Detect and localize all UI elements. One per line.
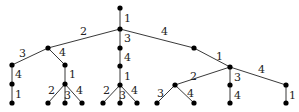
tree-node (227, 100, 232, 105)
edge-label: 4 (258, 63, 265, 76)
tree-node (62, 100, 67, 105)
tree-node (283, 100, 288, 105)
edge-label: 3 (19, 47, 26, 60)
tree-node (172, 82, 177, 87)
tree-node (154, 100, 159, 105)
tree-node (9, 62, 14, 67)
edge-label: 4 (131, 84, 138, 97)
edge-label: 1 (124, 12, 131, 25)
tree-edge (175, 67, 230, 85)
edge-label: 3 (234, 71, 241, 84)
edge-label: 4 (234, 89, 241, 102)
tree-node (45, 45, 50, 50)
tree-node (117, 100, 122, 105)
edge-label: 4 (187, 87, 194, 100)
tree-node (117, 26, 122, 31)
tree-node (62, 62, 67, 67)
tree-node (117, 5, 122, 10)
edge-label: 1 (216, 50, 223, 63)
tree-node (134, 100, 139, 105)
edge-label: 3 (157, 87, 164, 100)
edge-label: 4 (124, 51, 131, 64)
edge-label: 3 (64, 89, 71, 102)
tree-node (191, 100, 196, 105)
tree-node (191, 45, 196, 50)
tree-node (45, 100, 50, 105)
tree-node (9, 81, 14, 86)
tree-diagram: 1234344112344123412343441 (0, 0, 299, 112)
edge-label: 3 (119, 89, 126, 102)
edge-label: 1 (289, 89, 296, 102)
tree-node (62, 81, 67, 86)
tree-node (283, 82, 288, 87)
tree-node (9, 100, 14, 105)
tree-node (117, 45, 122, 50)
tree-node (227, 64, 232, 69)
tree-node (117, 82, 122, 87)
tree-node (79, 100, 84, 105)
tree-edge (120, 29, 194, 48)
tree-node (227, 82, 232, 87)
tree-edge (12, 48, 48, 65)
edge-label: 2 (190, 70, 197, 83)
edge-label: 2 (103, 84, 110, 97)
edge-label: 1 (15, 88, 22, 101)
edge-label: 3 (124, 32, 131, 45)
tree-edge (194, 48, 230, 67)
tree-node (100, 100, 105, 105)
edge-label: 4 (76, 84, 83, 97)
tree-node (117, 63, 122, 68)
edge-label: 4 (161, 25, 168, 38)
edge-label: 2 (48, 84, 55, 97)
edge-label: 2 (80, 25, 87, 38)
edge-label: 4 (15, 68, 22, 81)
edge-label: 1 (69, 68, 76, 81)
edge-label: 1 (124, 70, 131, 83)
edge-label: 4 (59, 46, 66, 59)
